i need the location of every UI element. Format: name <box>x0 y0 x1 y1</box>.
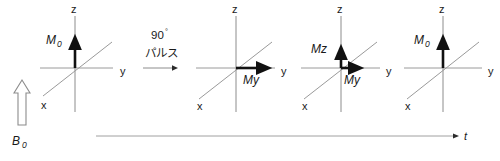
time-axis-arrow-head <box>453 133 459 138</box>
m0-vector-label: M <box>414 33 424 47</box>
my-vector-label: My <box>243 73 260 87</box>
panel-recovered: z y x M 0 <box>404 3 494 112</box>
axis-label-x: x <box>405 100 411 112</box>
diagram-canvas: B 0 z y x M 0 90 ° パルス z <box>0 0 500 161</box>
pulse-label-angle: 90 <box>151 29 164 41</box>
axis-label-x: x <box>302 100 308 112</box>
m0-vector-label: M <box>46 33 56 47</box>
axis-label-x: x <box>41 99 47 111</box>
pulse-label-text: パルス <box>145 47 178 59</box>
time-axis-label: t <box>464 130 468 142</box>
x-axis-line <box>43 42 112 96</box>
b0-label: B <box>12 134 20 148</box>
pulse-transition-group: 90 ° パルス <box>143 27 178 71</box>
time-axis-group: t <box>96 130 468 142</box>
panel-equilibrium: z y x M 0 <box>40 3 126 112</box>
axis-label-z: z <box>232 3 238 15</box>
axis-label-y: y <box>120 65 126 77</box>
axis-label-y: y <box>488 65 494 77</box>
m0-vector-label-subscript: 0 <box>425 39 430 49</box>
nmr-magnetization-diagram: B 0 z y x M 0 90 ° パルス z <box>0 0 500 161</box>
m0-vector-label-subscript: 0 <box>57 39 62 49</box>
panel-relaxation: z y x Mz My <box>301 3 392 112</box>
b0-field-group: B 0 <box>12 80 30 150</box>
axis-label-z: z <box>71 3 77 15</box>
degree-symbol-icon: ° <box>165 27 168 36</box>
b0-field-arrow <box>14 80 30 125</box>
b0-label-subscript: 0 <box>22 140 27 150</box>
axis-label-y: y <box>281 65 287 77</box>
axis-label-x: x <box>197 100 203 112</box>
axis-label-z: z <box>337 3 343 15</box>
axis-label-y: y <box>386 65 392 77</box>
axis-label-z: z <box>439 3 445 15</box>
pulse-transition-arrow-head <box>172 65 178 71</box>
my-vector-label: My <box>344 73 361 87</box>
mz-vector-label: Mz <box>311 42 327 56</box>
panel-after-90-pulse: z y x My <box>196 3 287 112</box>
